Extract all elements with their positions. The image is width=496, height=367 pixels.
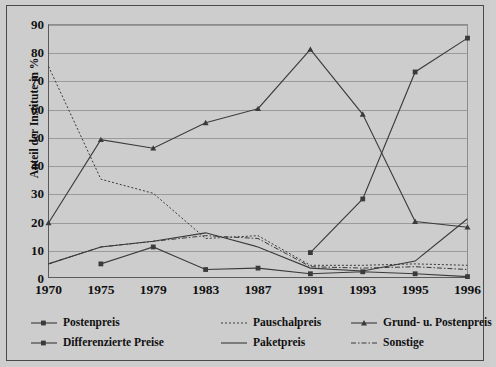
x-axis-tick-labels: 197019751979198319871991199319951996 (48, 282, 468, 304)
series-paketpreis (49, 219, 468, 271)
x-tick-label: 1987 (228, 282, 288, 298)
y-tick-label: 30 (4, 187, 44, 200)
series-grund-u-postenpreis (46, 46, 471, 229)
data-point-marker (98, 137, 104, 142)
data-point-marker (46, 220, 52, 225)
legend-label: Grund- u. Postenpreis (383, 317, 492, 329)
legend-item-postenpreis[interactable]: Postenpreis (30, 317, 220, 329)
legend-item-paketpreis[interactable]: Paketpreis (220, 337, 350, 349)
legend-label: Sonstige (383, 337, 424, 349)
x-tick-label: 1996 (438, 282, 496, 298)
y-tick-label: 70 (4, 74, 44, 87)
y-tick-label: 40 (4, 159, 44, 172)
series-layer (48, 24, 468, 278)
data-point-marker (256, 266, 261, 271)
data-point-marker (360, 197, 365, 202)
x-tick-label: 1995 (385, 282, 445, 298)
y-tick-label: 60 (4, 102, 44, 115)
x-tick-label: 1970 (19, 282, 79, 298)
legend-swatch-icon (220, 318, 248, 328)
legend-item-pauschalpreis[interactable]: Pauschalpreis (220, 317, 350, 329)
y-axis-tick-labels: 9080706050403020100 (0, 24, 44, 278)
series-postenpreis (308, 36, 470, 255)
legend-swatch-icon (30, 338, 58, 348)
data-point-marker (413, 70, 418, 75)
data-point-marker (413, 271, 418, 276)
legend-swatch-icon (350, 338, 378, 348)
chart-area: Anteil der Institute in % 90807060504030… (0, 0, 490, 300)
legend-label: Paketpreis (253, 337, 305, 349)
legend-swatch-icon (220, 338, 248, 348)
legend-swatch-icon (30, 318, 58, 328)
data-point-marker (465, 274, 470, 279)
y-tick-label: 80 (4, 46, 44, 59)
data-point-marker (203, 267, 208, 272)
legend-item-differenzierte-preise[interactable]: Differenzierte Preise (30, 337, 220, 349)
data-point-marker (307, 46, 313, 51)
y-tick-label: 10 (4, 243, 44, 256)
series-sonstige (49, 236, 468, 270)
x-tick-label: 1993 (333, 282, 393, 298)
legend-label: Pauschalpreis (253, 317, 321, 329)
legend-swatch-icon (350, 318, 378, 328)
y-tick-label: 20 (4, 215, 44, 228)
series-line (310, 38, 467, 252)
y-tick-label: 90 (4, 18, 44, 31)
series-line (49, 49, 468, 227)
data-point-marker (151, 245, 156, 250)
legend-label: Differenzierte Preise (63, 337, 164, 349)
x-tick-label: 1991 (280, 282, 340, 298)
y-tick-label: 50 (4, 130, 44, 143)
data-point-marker (465, 36, 470, 41)
x-tick-label: 1975 (71, 282, 131, 298)
legend-item-grund-u-postenpreis[interactable]: Grund- u. Postenpreis (350, 317, 496, 329)
legend-label: Postenpreis (63, 317, 120, 329)
data-point-marker (308, 271, 313, 276)
x-tick-label: 1979 (123, 282, 183, 298)
series-line (49, 219, 468, 271)
x-tick-label: 1983 (176, 282, 236, 298)
data-point-marker (98, 261, 103, 266)
legend-item-sonstige[interactable]: Sonstige (350, 337, 496, 349)
series-line (49, 236, 468, 270)
data-point-marker (308, 250, 313, 255)
chart-legend: PostenpreisPauschalpreisGrund- u. Posten… (30, 313, 460, 353)
